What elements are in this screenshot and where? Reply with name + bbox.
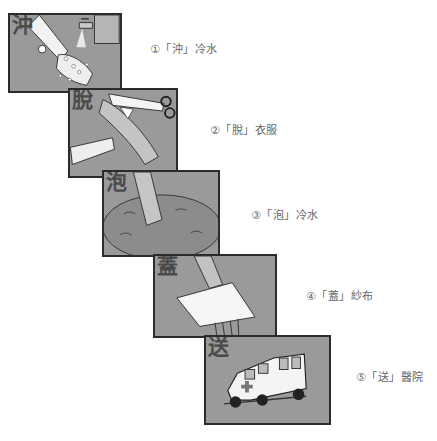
- step-5-caption: ⑤「送」醫院: [356, 368, 424, 384]
- step-5-glyph: 送: [208, 337, 228, 358]
- step-1-glyph: 沖: [12, 15, 32, 36]
- step-3-glyph: 泡: [106, 172, 126, 193]
- step-3-panel: 泡: [102, 170, 220, 257]
- step-3-caption: ③「泡」冷水: [251, 206, 319, 222]
- step-1-panel: 沖: [8, 13, 122, 93]
- step-4-caption: ④「蓋」紗布: [306, 287, 374, 303]
- step-2-panel: 脫: [68, 88, 178, 178]
- step-2-caption: ②「脫」衣服: [210, 121, 278, 137]
- step-2-glyph: 脫: [72, 90, 92, 111]
- step-4-glyph: 蓋: [157, 256, 177, 277]
- step-4-panel: 蓋: [153, 254, 277, 338]
- step-5-panel: 送: [204, 335, 331, 425]
- step-1-caption: ①「沖」冷水: [150, 40, 218, 56]
